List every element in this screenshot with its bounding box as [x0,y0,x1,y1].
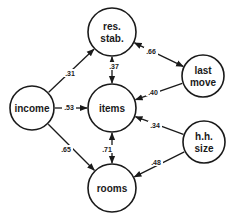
nodes-layer: incomeres.stab.itemsroomslastmoveh.h.siz… [10,8,225,212]
edge-coefficient-label: .66 [146,48,156,55]
edge-coefficient-label: .71 [102,146,112,153]
edge-coefficient-label: .40 [148,89,158,96]
node-label: stab. [100,33,124,44]
path-diagram: incomeres.stab.itemsroomslastmoveh.h.siz… [0,0,235,219]
edge-coefficient-label: .53 [64,104,74,111]
node-label: rooms [97,183,128,194]
node-label: income [14,103,49,114]
node-hh_size: h.h.size [183,121,225,163]
edge-coefficient-label: .34 [150,122,160,129]
edge-coefficient-label: .31 [65,70,75,77]
node-label: last [194,65,212,76]
node-label: res. [103,21,121,32]
node-label: items [99,103,126,114]
node-label: move [190,77,217,88]
edge-coefficient-label: .65 [61,146,71,153]
node-label: h.h. [195,131,213,142]
edge-res_stab-last_move-arrow [135,43,184,67]
edge-coefficient-label: .48 [151,159,161,166]
node-rooms: rooms [88,164,136,212]
node-income: income [10,86,54,130]
node-items: items [88,84,136,132]
node-res_stab: res.stab. [88,8,136,56]
node-label: size [195,143,214,154]
node-last_move: lastmove [182,55,224,97]
edge-coefficient-label: .37 [109,63,119,70]
